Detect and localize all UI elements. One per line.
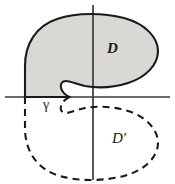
figure-container: D D′ γ	[0, 0, 175, 184]
upper-region-fill	[25, 14, 158, 97]
figure-canvas	[0, 0, 175, 184]
region-label-D-prime: D′	[112, 131, 126, 146]
arc-label-gamma: γ	[43, 98, 49, 112]
region-label-D: D	[107, 41, 118, 56]
